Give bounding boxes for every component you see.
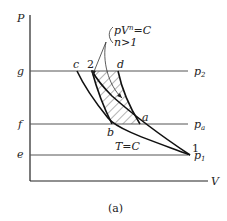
level-label-e: e <box>17 148 24 161</box>
leader-line <box>93 42 106 74</box>
y-axis-label: P <box>16 12 25 25</box>
annotation-bracket <box>109 27 113 43</box>
pv-diagram: P V g f e p2 pa p1 c 2 d a b 1 pVn=C n>1… <box>0 0 227 221</box>
point-label-d: d <box>117 58 124 71</box>
level-label-g: g <box>17 65 24 78</box>
x-axis-label: V <box>211 175 220 188</box>
diagram-canvas: P V g f e p2 pa p1 c 2 d a b 1 pVn=C n>1… <box>0 0 227 221</box>
point-label-2: 2 <box>87 58 94 71</box>
figure-caption: (a) <box>108 202 123 215</box>
point-label-c: c <box>73 58 79 71</box>
point-label-a: a <box>142 111 149 124</box>
pressure-label-pa: pa <box>194 118 205 132</box>
isotherm-label: T=C <box>115 140 141 153</box>
point-label-1: 1 <box>192 142 199 155</box>
point-label-b: b <box>107 126 114 139</box>
polytropic-condition: n>1 <box>114 36 137 49</box>
pressure-label-p2: p2 <box>194 65 206 79</box>
hatched-work-area <box>92 71 140 124</box>
level-label-f: f <box>17 118 24 131</box>
